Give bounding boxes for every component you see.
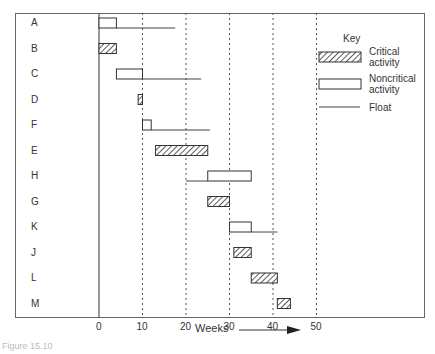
legend-open-swatch bbox=[319, 79, 361, 89]
gridlines bbox=[143, 13, 317, 318]
noncritical-bar-K bbox=[230, 222, 252, 232]
legend: KeyCriticalactivityNoncriticalactivityFl… bbox=[319, 33, 416, 113]
x-axis-label: Weeks bbox=[195, 322, 228, 334]
activity-label-M: M bbox=[31, 298, 39, 309]
activity-label-J: J bbox=[31, 247, 36, 258]
legend-hatched-swatch bbox=[319, 52, 361, 62]
legend-label: Noncritical bbox=[369, 73, 416, 84]
critical-bar-M bbox=[277, 299, 290, 309]
activity-label-F: F bbox=[31, 119, 37, 130]
noncritical-bar-C bbox=[116, 69, 142, 79]
noncritical-bar-H bbox=[208, 171, 252, 181]
activity-label-D: D bbox=[31, 94, 38, 105]
critical-bar-L bbox=[251, 273, 277, 283]
legend-label: activity bbox=[369, 57, 400, 68]
x-tick-0: 0 bbox=[96, 321, 102, 332]
legend-label: Float bbox=[369, 102, 391, 113]
activity-label-A: A bbox=[31, 17, 38, 28]
activity-label-H: H bbox=[31, 170, 38, 181]
x-tick-10: 10 bbox=[137, 321, 148, 332]
gantt-chart: KeyCriticalactivityNoncriticalactivityFl… bbox=[0, 0, 435, 354]
activity-label-G: G bbox=[31, 196, 39, 207]
activity-label-C: C bbox=[31, 68, 38, 79]
activity-label-L: L bbox=[31, 272, 37, 283]
noncritical-bar-A bbox=[99, 18, 116, 28]
activity-label-B: B bbox=[31, 43, 38, 54]
critical-bar-D bbox=[138, 95, 142, 105]
activity-label-K: K bbox=[31, 221, 38, 232]
critical-bar-J bbox=[234, 248, 251, 258]
arrow-right-icon bbox=[239, 325, 301, 335]
critical-bar-B bbox=[99, 44, 116, 54]
critical-bar-G bbox=[208, 197, 230, 207]
noncritical-bar-F bbox=[143, 120, 152, 130]
figure-caption: Figure 15.10 bbox=[2, 341, 53, 351]
chart-canvas: KeyCriticalactivityNoncriticalactivityFl… bbox=[0, 0, 435, 354]
legend-label: activity bbox=[369, 84, 400, 95]
legend-title: Key bbox=[343, 33, 360, 44]
x-tick-50: 50 bbox=[311, 321, 322, 332]
legend-label: Critical bbox=[369, 46, 400, 57]
activity-label-E: E bbox=[31, 145, 38, 156]
critical-bar-E bbox=[156, 146, 208, 156]
chart-frame bbox=[16, 14, 425, 318]
x-tick-20: 20 bbox=[180, 321, 191, 332]
activity-bars bbox=[99, 18, 290, 309]
